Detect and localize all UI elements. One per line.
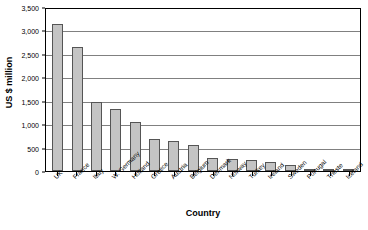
plot-area xyxy=(45,8,361,172)
bar-slot xyxy=(300,9,319,171)
bar xyxy=(91,102,102,171)
bar-slot xyxy=(48,9,67,171)
bar-slot xyxy=(126,9,145,171)
y-axis-tick-label: 500 xyxy=(27,145,39,152)
bar-slot xyxy=(261,9,280,171)
bar xyxy=(72,47,83,172)
bars-layer xyxy=(46,9,360,171)
bar-slot xyxy=(281,9,300,171)
bar-slot xyxy=(164,9,183,171)
y-axis-tick-label: 3,500 xyxy=(21,5,39,12)
y-axis-tick-label: 0 xyxy=(35,169,39,176)
y-axis-tick-label: 2,000 xyxy=(21,75,39,82)
x-axis-title: Country xyxy=(45,208,361,218)
bar-slot xyxy=(184,9,203,171)
bar xyxy=(110,109,121,171)
bar-slot xyxy=(242,9,261,171)
bar-slot xyxy=(339,9,358,171)
bar-slot xyxy=(106,9,125,171)
bar-slot xyxy=(145,9,164,171)
bar xyxy=(52,24,63,171)
bar-slot xyxy=(319,9,338,171)
bar-slot xyxy=(222,9,241,171)
y-axis-title-text: US $ million xyxy=(6,57,15,109)
y-axis-tick-label: 2,500 xyxy=(21,51,39,58)
bar-chart: US $ million 05001,0001,5002,0002,5003,0… xyxy=(0,0,368,230)
y-axis-tick-label: 3,000 xyxy=(21,28,39,35)
x-axis-tick-labels: UKFranceItalyW. GermanyHollandGreeceAust… xyxy=(45,176,361,208)
y-axis-tick-labels: 05001,0001,5002,0002,5003,0003,500 xyxy=(16,8,42,172)
bar-slot xyxy=(87,9,106,171)
y-axis-tick-label: 1,500 xyxy=(21,98,39,105)
bar-slot xyxy=(67,9,86,171)
bar-slot xyxy=(203,9,222,171)
y-axis-tick-label: 1,000 xyxy=(21,122,39,129)
